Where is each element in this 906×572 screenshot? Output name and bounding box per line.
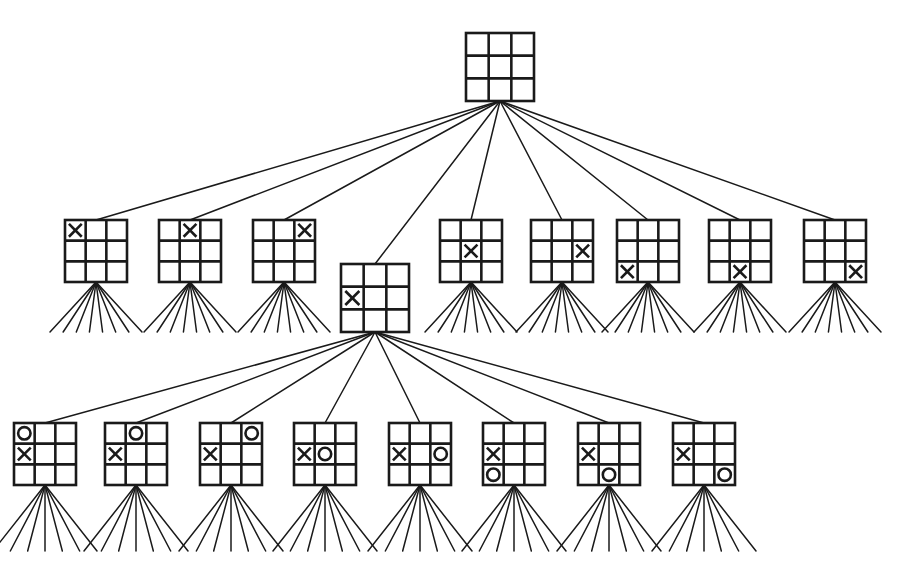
tree-canvas xyxy=(0,0,906,572)
game-tree-figure xyxy=(0,0,906,572)
